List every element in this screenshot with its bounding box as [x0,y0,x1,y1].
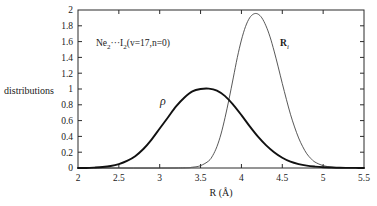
y-tick-label: 1.2 [61,69,73,79]
y-tick-label: 1 [68,84,73,94]
x-axis-ticks [119,10,323,168]
x-tick-label: 4 [239,173,244,183]
y-tick-label: 0.6 [61,116,73,126]
x-tick-label: 3 [157,173,162,183]
curve-rho [78,88,364,168]
y-tick-label: 0.4 [61,132,73,142]
curve-ri [78,13,364,168]
x-tick-label: 2.5 [113,173,125,183]
y-tick-label: 2 [68,5,73,15]
y-tick-label: 0 [68,163,73,173]
distribution-chart: 22.533.544.555.5 00.20.40.60.811.21.41.6… [0,0,377,206]
y-tick-label: 0.8 [61,100,73,110]
rho-curve-label: ρ [159,94,166,108]
x-tick-label: 2 [76,173,81,183]
system-label: Ne2···I2(v=17,n=0) [96,38,170,51]
x-tick-label: 4.5 [276,173,288,183]
x-axis-tick-labels: 22.533.544.555.5 [76,173,371,183]
figure-container: 22.533.544.555.5 00.20.40.60.811.21.41.6… [0,0,377,206]
y-tick-label: 1.8 [61,21,73,31]
y-axis-label: distributions [4,85,54,96]
ri-curve-label: Ri [280,38,289,51]
x-axis-label: R (Å) [209,187,232,199]
y-axis-tick-labels: 00.20.40.60.811.21.41.61.82 [61,5,73,173]
x-tick-label: 5 [321,173,326,183]
x-tick-label: 3.5 [195,173,207,183]
plot-frame [78,10,364,168]
y-tick-label: 1.4 [61,53,73,63]
y-tick-label: 0.2 [61,148,73,158]
y-tick-label: 1.6 [61,37,73,47]
x-tick-label: 5.5 [358,173,370,183]
